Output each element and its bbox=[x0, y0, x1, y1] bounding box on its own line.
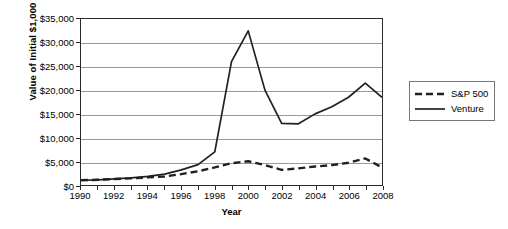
legend-swatch-solid-icon bbox=[415, 104, 445, 114]
chart-legend: S&P 500Venture bbox=[409, 81, 495, 121]
legend-label: Venture bbox=[451, 103, 484, 114]
x-axis-tick-label: 2004 bbox=[305, 190, 326, 201]
x-axis-label: Year bbox=[80, 206, 383, 217]
legend-swatch-dashed-icon bbox=[415, 89, 445, 99]
x-axis-tick-label: 1998 bbox=[204, 190, 225, 201]
x-axis-tick-label: 1996 bbox=[170, 190, 191, 201]
plot-area bbox=[80, 18, 383, 186]
legend-label: S&P 500 bbox=[451, 88, 488, 99]
legend-item[interactable]: Venture bbox=[415, 101, 488, 116]
x-axis-tick-label: 1992 bbox=[103, 190, 124, 201]
y-axis-tick-marks bbox=[0, 18, 80, 186]
x-axis-tick-label: 2000 bbox=[238, 190, 259, 201]
x-axis-tick-label: 2006 bbox=[339, 190, 360, 201]
chart-figure: Value of Initial $1,000 $35,000$30,000$2… bbox=[0, 0, 508, 229]
x-axis-tick-labels: 1990199219941996199820002002200420062008 bbox=[0, 190, 508, 206]
x-axis-tick-label: 1994 bbox=[137, 190, 158, 201]
x-axis-tick-label: 1990 bbox=[69, 190, 90, 201]
x-axis-tick-label: 2002 bbox=[271, 190, 292, 201]
legend-item[interactable]: S&P 500 bbox=[415, 86, 488, 101]
series-line-s-p-500 bbox=[81, 158, 382, 180]
series-lines bbox=[81, 19, 382, 185]
x-axis-tick-label: 2008 bbox=[372, 190, 393, 201]
series-line-venture bbox=[81, 31, 382, 180]
